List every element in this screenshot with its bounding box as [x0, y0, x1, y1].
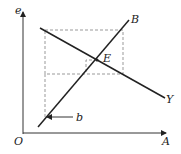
label-arrow-b: b [76, 111, 83, 124]
label-y-axis: e [15, 4, 22, 17]
diagram: e A O B Y E b [0, 0, 181, 154]
point-e [96, 59, 99, 62]
label-x-axis: A [161, 135, 170, 148]
dashed-rect-small [86, 60, 97, 74]
label-line-y: Y [166, 93, 175, 106]
label-line-b: B [130, 13, 139, 26]
line-b [38, 20, 129, 127]
label-point-e: E [102, 52, 111, 65]
label-origin: O [14, 135, 23, 148]
